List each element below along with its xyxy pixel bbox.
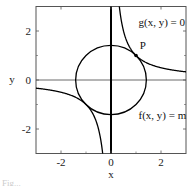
y-axis-label: y (9, 73, 15, 85)
point-p (134, 54, 138, 58)
x-tick-label: -2 (56, 156, 65, 168)
figure-caption: Fig... (2, 178, 21, 186)
annotation-2: P (140, 39, 146, 51)
x-tick-label: 2 (158, 156, 164, 168)
y-tick-label: 0 (26, 74, 32, 86)
y-tick-label: -2 (22, 123, 31, 135)
series-hyperbola-branch-2 (36, 88, 104, 162)
x-tick-label: 0 (108, 156, 114, 168)
series-hyperbola-branch-1 (119, 0, 187, 72)
annotation-1: g(x, y) = 0 (139, 16, 186, 29)
x-axis-label: x (108, 168, 114, 180)
y-tick-label: 2 (26, 25, 32, 37)
chart: -202-202 x y g(x, y) = 0Pf(x, y) = m (0, 0, 196, 186)
annotation-3: f(x, y) = m (139, 109, 187, 122)
